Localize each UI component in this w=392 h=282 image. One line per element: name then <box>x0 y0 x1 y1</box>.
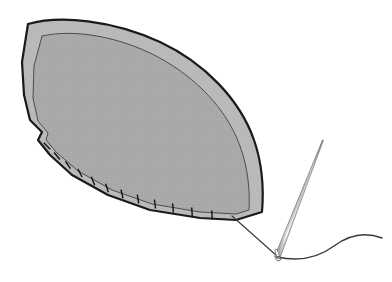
illustration-root <box>0 0 392 282</box>
stitch-mark <box>173 204 174 213</box>
stitch-mark <box>192 208 193 217</box>
illustration-canvas <box>0 0 392 282</box>
